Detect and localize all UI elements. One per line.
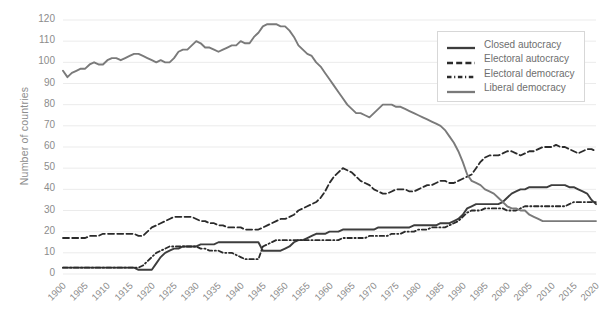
chart-legend: Closed autocracyElectoral autocracyElect… [437,31,585,102]
legend-label: Electoral autocracy [484,53,569,64]
legend-label: Closed autocracy [484,39,561,50]
legend-swatch-icon [446,54,476,64]
legend-item[interactable]: Closed autocracy [446,37,575,52]
series-line-electoral-democracy [63,202,596,268]
legend-label: Liberal democracy [484,82,566,93]
legend-item[interactable]: Liberal democracy [446,81,575,96]
legend-swatch-icon [446,83,476,93]
legend-item[interactable]: Electoral democracy [446,66,575,81]
legend-swatch-icon [446,39,476,49]
series-line-closed-autocracy [63,185,596,270]
line-chart: Number of countries 01020304050607080901… [0,0,608,319]
legend-swatch-icon [446,68,476,78]
legend-label: Electoral democracy [484,68,575,79]
legend-item[interactable]: Electoral autocracy [446,52,575,67]
